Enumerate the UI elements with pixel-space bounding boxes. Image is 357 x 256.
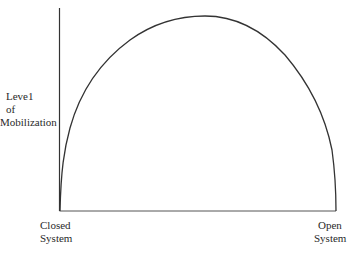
y-axis-label-line-3: Mobilization	[0, 116, 57, 129]
y-axis-label-line-1: Leve1	[0, 90, 57, 103]
x-axis-left-label: Closed System	[40, 219, 72, 245]
open-system-label-line-1: Open	[314, 219, 346, 232]
closed-system-label-line-2: System	[40, 232, 72, 245]
diagram-canvas: Leve1 of Mobilization Closed System Open…	[0, 0, 357, 256]
closed-system-label-line-1: Closed	[40, 219, 72, 232]
mobilization-curve	[60, 16, 336, 211]
x-axis-right-label: Open System	[314, 219, 346, 245]
y-axis-label-line-2: of	[0, 103, 57, 116]
y-axis-label: Leve1 of Mobilization	[0, 90, 57, 129]
open-system-label-line-2: System	[314, 232, 346, 245]
